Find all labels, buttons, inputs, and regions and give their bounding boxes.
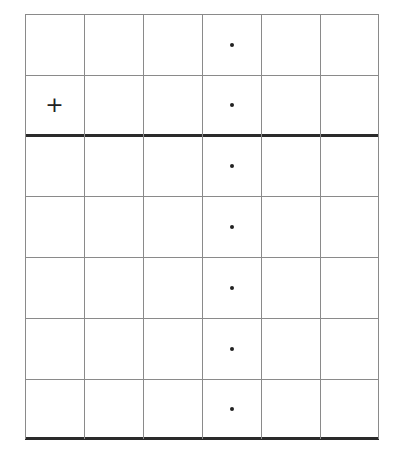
dot-icon: [230, 43, 234, 47]
grid-cell: +: [25, 75, 84, 135]
column-divider: [378, 14, 379, 439]
column-divider: [84, 14, 85, 439]
grid-cell: [202, 75, 261, 135]
plus-icon: +: [45, 94, 63, 116]
column-divider: [320, 14, 321, 439]
column-divider: [143, 14, 144, 439]
dot-icon: [230, 347, 234, 351]
grid-cell: [202, 196, 261, 257]
grid-cell: [202, 14, 261, 75]
grid-cell: [202, 318, 261, 379]
dot-icon: [230, 286, 234, 290]
dot-icon: [230, 103, 234, 107]
dot-icon: [230, 225, 234, 229]
dot-icon: [230, 164, 234, 168]
column-divider: [261, 14, 262, 439]
grid-cell: [202, 135, 261, 196]
grid-cell: [202, 257, 261, 318]
grid-cell: [202, 379, 261, 439]
dot-icon: [230, 407, 234, 411]
grid-diagram: +: [25, 14, 379, 439]
